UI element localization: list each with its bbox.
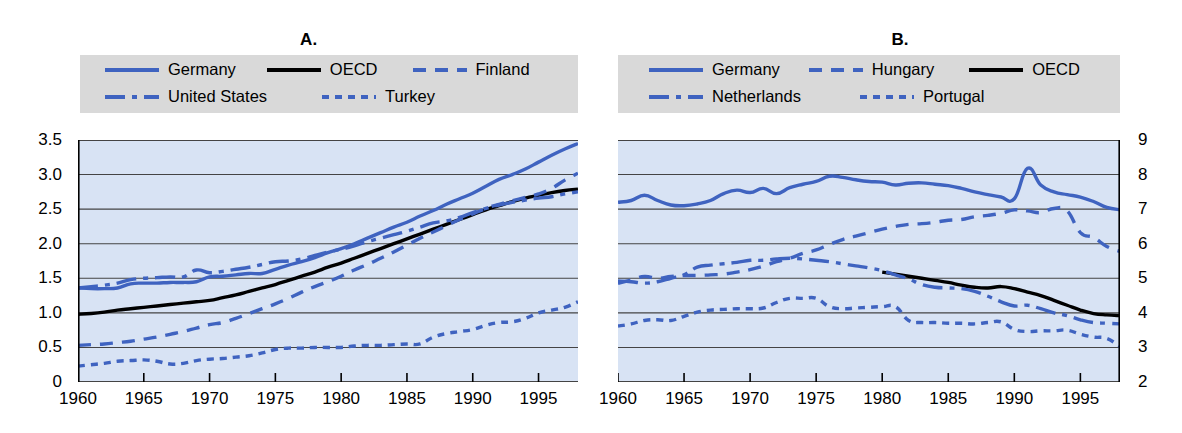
legend-label: OECD	[1032, 61, 1080, 78]
y-tick-label: 3	[1138, 338, 1147, 355]
legend-entry-portugal[interactable]: Portugal	[859, 88, 984, 105]
y-tick-label: 1.0	[38, 304, 62, 321]
y-tick-label: 9	[1138, 131, 1147, 148]
x-tick-label: 1990	[454, 390, 492, 407]
x-tick-label: 1960	[599, 390, 637, 407]
legend-entry-united-states[interactable]: United States	[104, 88, 267, 105]
panel-a-y-axis-labels: 00.51.01.52.02.53.03.5	[0, 140, 70, 382]
y-tick-label: 7	[1138, 200, 1147, 217]
legend-line-sample-solid	[648, 63, 704, 77]
panel-a-x-axis-labels: 19601965197019751980198519901995	[78, 388, 578, 414]
legend-entry-hungary[interactable]: Hungary	[808, 61, 934, 78]
panel-a-title-label: A.	[300, 30, 317, 49]
panel-b-plot	[618, 140, 1120, 382]
legend-line-sample-dotted	[321, 90, 377, 104]
y-tick-label: 0	[53, 373, 62, 390]
y-tick-label: 6	[1138, 235, 1147, 252]
y-tick-label: 2.0	[38, 235, 62, 252]
panel-b-legend-row-2: NetherlandsPortugal	[618, 82, 1120, 111]
plot-background	[618, 140, 1120, 382]
y-tick-label: 1.5	[38, 269, 62, 286]
legend-entry-turkey[interactable]: Turkey	[321, 88, 435, 105]
x-tick-label: 1965	[665, 390, 703, 407]
y-tick-label: 8	[1138, 166, 1147, 183]
panel-b-y-axis-labels: 23456789	[1128, 140, 1182, 382]
legend-label: OECD	[330, 61, 378, 78]
panel-practising-physicians: A. Practising physicians GermanyOECDFinl…	[0, 0, 591, 433]
legend-line-sample-solid	[104, 63, 160, 77]
legend-entry-germany[interactable]: Germany	[648, 61, 780, 78]
y-tick-label: 3.0	[38, 166, 62, 183]
y-tick-label: 4	[1138, 304, 1147, 321]
x-tick-label: 1960	[59, 390, 97, 407]
x-tick-label: 1990	[995, 390, 1033, 407]
x-tick-label: 1985	[929, 390, 967, 407]
panel-b-x-axis-labels: 19601965197019751980198519901995	[618, 388, 1120, 414]
x-tick-label: 1965	[125, 390, 163, 407]
legend-label: Turkey	[385, 88, 435, 105]
x-tick-label: 1980	[863, 390, 901, 407]
legend-entry-germany[interactable]: Germany	[104, 61, 236, 78]
panel-a-legend-row-2: United StatesTurkey	[80, 82, 578, 111]
panel-b-legend: GermanyHungaryOECD NetherlandsPortugal	[618, 55, 1120, 113]
figure-root: A. Practising physicians GermanyOECDFinl…	[0, 0, 1182, 433]
x-tick-label: 1970	[191, 390, 229, 407]
y-tick-label: 2.5	[38, 200, 62, 217]
x-tick-label: 1985	[388, 390, 426, 407]
x-tick-label: 1975	[797, 390, 835, 407]
legend-line-sample-solid	[266, 63, 322, 77]
panel-a-legend: GermanyOECDFinland United StatesTurkey	[80, 55, 578, 113]
x-tick-label: 1995	[520, 390, 558, 407]
legend-label: Germany	[168, 61, 236, 78]
y-tick-label: 0.5	[38, 338, 62, 355]
x-tick-label: 1980	[322, 390, 360, 407]
y-tick-label: 3.5	[38, 131, 62, 148]
legend-label: Portugal	[923, 88, 984, 105]
x-tick-label: 1970	[731, 390, 769, 407]
legend-entry-finland[interactable]: Finland	[412, 61, 530, 78]
legend-label: United States	[168, 88, 267, 105]
legend-label: Finland	[476, 61, 530, 78]
legend-line-sample-dashed	[808, 63, 864, 77]
legend-label: Netherlands	[712, 88, 801, 105]
legend-line-sample-dashed	[412, 63, 468, 77]
legend-entry-oecd[interactable]: OECD	[968, 61, 1080, 78]
legend-line-sample-dotted	[859, 90, 915, 104]
y-tick-label: 2	[1138, 373, 1147, 390]
legend-line-sample-dashdot	[104, 90, 160, 104]
legend-entry-netherlands[interactable]: Netherlands	[648, 88, 801, 105]
panel-b-title-label: B.	[891, 30, 908, 49]
legend-label: Hungary	[872, 61, 934, 78]
panel-b-legend-row-1: GermanyHungaryOECD	[618, 55, 1120, 84]
x-tick-label: 1995	[1061, 390, 1099, 407]
panel-a-plot	[78, 140, 578, 382]
panel-a-legend-row-1: GermanyOECDFinland	[80, 55, 578, 84]
legend-entry-oecd[interactable]: OECD	[266, 61, 378, 78]
y-tick-label: 5	[1138, 269, 1147, 286]
x-tick-label: 1975	[256, 390, 294, 407]
legend-label: Germany	[712, 61, 780, 78]
legend-line-sample-dashdot	[648, 90, 704, 104]
legend-line-sample-solid	[968, 63, 1024, 77]
